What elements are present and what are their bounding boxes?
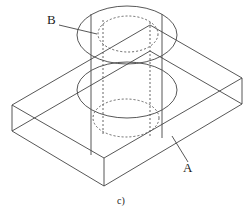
box-top-face (12, 25, 242, 158)
label-b: B (47, 12, 56, 28)
box-bottom-right-edge (104, 104, 242, 186)
isometric-diagram (0, 0, 248, 215)
hole-top-ellipse (98, 16, 158, 52)
box-bottom-back-left-edge (12, 51, 150, 131)
box-bottom-back-right-edge (150, 51, 242, 104)
box-bottom-left-edge (12, 131, 104, 186)
figure-caption: c) (117, 195, 125, 206)
leader-line-a (172, 136, 188, 162)
label-a: A (183, 160, 192, 176)
